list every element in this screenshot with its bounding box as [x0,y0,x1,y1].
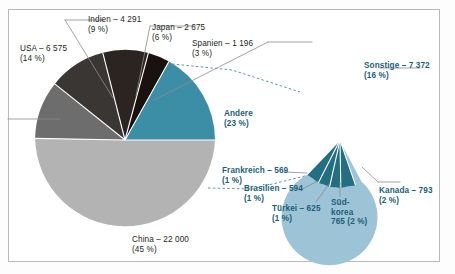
label-suedkorea-value: 765 (2 %) [331,217,367,227]
label-brasilien-percent: (1 %) [244,194,303,204]
label-tuerkei: Türkei – 625 (1 %) [272,204,321,223]
label-china-percent: (45 %) [132,245,189,255]
label-andere: Andere (23 %) [224,109,253,128]
label-andere-percent: (23 %) [224,119,253,129]
label-frankreich: Frankreich – 569 (1 %) [222,166,288,185]
label-andere-value: Andere [224,109,253,119]
label-usa-value: USA – 6 575 [20,44,67,54]
main-slice-china[interactable] [35,138,215,226]
label-tuerkei-percent: (1 %) [272,214,321,224]
label-tuerkei-value: Türkei – 625 [272,204,321,214]
label-spanien: Spanien – 1 196 (3 %) [192,39,253,58]
label-china: China – 22 000 (45 %) [132,235,189,254]
label-japan-value: Japan – 2 675 [152,23,205,33]
label-kanada-percent: (2 %) [379,196,433,206]
label-usa-percent: (14 %) [20,54,67,64]
label-kanada: Kanada – 793 (2 %) [379,186,433,205]
label-indien-percent: (9 %) [88,25,141,35]
chart-figure: USA – 6 575 (14 %) Indien – 4 291 (9 %) … [0,0,455,274]
label-spanien-value: Spanien – 1 196 [192,39,253,49]
label-usa: USA – 6 575 (14 %) [20,44,67,63]
label-suedkorea-line1: Süd- [331,198,367,208]
label-suedkorea: Süd- korea 765 (2 %) [331,198,367,227]
label-indien: Indien – 4 291 (9 %) [88,15,141,34]
label-indien-value: Indien – 4 291 [88,15,141,25]
label-kanada-value: Kanada – 793 [379,186,433,196]
label-brasilien-value: Brasilien – 594 [244,184,303,194]
label-sonstige-value: Sonstige – 7 372 [364,61,430,71]
label-frankreich-percent: (1 %) [222,176,288,186]
label-frankreich-value: Frankreich – 569 [222,166,288,176]
label-brasilien: Brasilien – 594 (1 %) [244,184,303,203]
label-suedkorea-line2: korea [331,208,367,218]
label-sonstige-percent: (16 %) [364,71,430,81]
leader-kanada [362,167,400,182]
label-china-value: China – 22 000 [132,235,189,245]
label-spanien-percent: (3 %) [192,49,253,59]
label-sonstige: Sonstige – 7 372 (16 %) [364,61,430,80]
